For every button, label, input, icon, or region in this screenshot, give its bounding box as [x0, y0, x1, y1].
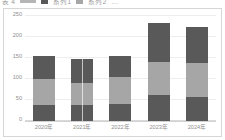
- x-tick-label-2024年: 2024年: [188, 125, 206, 131]
- plot-area: 050100150200250 2020年2021年2022年2023年2024…: [4, 9, 221, 136]
- bar-group-2020年[interactable]: 2020年: [25, 16, 63, 121]
- bar-group-2024年[interactable]: 2024年: [178, 16, 216, 121]
- stacked-bar[interactable]: [71, 59, 93, 121]
- x-tick-label-2022年: 2022年: [111, 125, 129, 131]
- chart-screenshot: 表 4 系列1 系列2 … 050100150200250 2020年2021年…: [0, 0, 225, 140]
- header-left-text: 表 4: [2, 0, 15, 6]
- legend-label-series-2: 系列2: [88, 0, 106, 6]
- bar-segment-系列3[interactable]: [33, 56, 55, 79]
- bar-segment-系列3[interactable]: [71, 59, 93, 83]
- y-tick-label-200: 200: [13, 33, 22, 39]
- x-tick-label-2020年: 2020年: [35, 125, 53, 131]
- stacked-bar[interactable]: [148, 23, 170, 121]
- legend-label-series-1: 系列1: [53, 0, 71, 6]
- x-tick-label-2021年: 2021年: [73, 125, 91, 131]
- bar-segment-系列2[interactable]: [33, 79, 55, 105]
- x-tick-label-2023年: 2023年: [149, 125, 167, 131]
- y-tick-label-250: 250: [13, 12, 22, 18]
- bar-group-2021年[interactable]: 2021年: [63, 16, 101, 121]
- bar-segment-系列1[interactable]: [186, 97, 208, 121]
- chart-frame[interactable]: 050100150200250 2020年2021年2022年2023年2024…: [3, 8, 222, 137]
- y-tick-label-100: 100: [13, 75, 22, 81]
- legend-swatch-series-2: [76, 0, 83, 4]
- y-tick-label-0: 0: [19, 117, 22, 123]
- bar-segment-系列3[interactable]: [109, 56, 131, 77]
- y-tick-label-50: 50: [16, 96, 22, 102]
- stacked-bar[interactable]: [109, 56, 131, 121]
- bar-segment-系列2[interactable]: [109, 77, 131, 104]
- bar-segment-系列1[interactable]: [109, 104, 131, 121]
- bar-segment-系列1[interactable]: [148, 95, 170, 121]
- bar-series-container: 2020年2021年2022年2023年2024年: [25, 16, 216, 121]
- bar-group-2023年[interactable]: 2023年: [140, 16, 178, 121]
- x-axis-line: [25, 121, 216, 122]
- bar-group-2022年[interactable]: 2022年: [101, 16, 139, 121]
- header-trailing-text: …: [111, 0, 118, 5]
- plot-inner: 050100150200250 2020年2021年2022年2023年2024…: [25, 16, 216, 121]
- bar-segment-系列1[interactable]: [33, 105, 55, 121]
- cropped-header-strip: 表 4 系列1 系列2 …: [0, 0, 225, 8]
- y-tick-label-150: 150: [13, 54, 22, 60]
- bar-segment-系列2[interactable]: [148, 62, 170, 95]
- bar-segment-系列1[interactable]: [71, 105, 93, 121]
- legend-swatch-series-1: [41, 0, 48, 4]
- stacked-bar[interactable]: [186, 27, 208, 121]
- header-rule: [20, 0, 36, 3]
- stacked-bar[interactable]: [33, 56, 55, 121]
- bar-segment-系列3[interactable]: [148, 23, 170, 62]
- bar-segment-系列2[interactable]: [71, 83, 93, 105]
- bar-segment-系列3[interactable]: [186, 27, 208, 63]
- bar-segment-系列2[interactable]: [186, 63, 208, 97]
